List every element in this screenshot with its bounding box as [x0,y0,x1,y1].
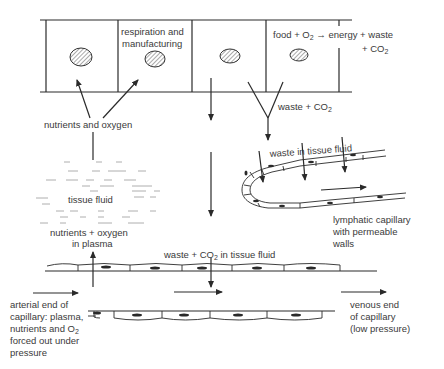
label-arterial-3: nutrients and O2 [10,323,79,335]
label-venous-3: (low pressure) [350,323,410,334]
nutrient-arrows [77,80,138,118]
label-waste-in-tissue-fluid: waste in tissue fluid [268,142,352,159]
tissue-fluid-diagram: respiration and manufacturing food + O2 … [0,0,444,369]
blood-capillary-lower-nuclei [93,312,301,317]
label-arterial-2: capillary: plasma, [10,311,83,322]
label-lymphatic-2: with permeable [332,226,397,237]
label-lymphatic-1: lymphatic capillary [333,214,411,225]
lymphatic-nuclei [245,154,384,207]
lymph-flow-arrow [321,187,366,190]
label-nutrients-plasma-1: nutrients + oxygen [50,227,128,238]
label-manufacturing: manufacturing [122,38,182,49]
label-respiration: respiration and [121,26,184,37]
nucleus-icon [290,49,308,61]
nucleus-icon [220,49,240,63]
nucleus-icon [70,48,92,66]
tissue-fluid-dashes [36,162,160,223]
label-venous-1: venous end [350,299,399,310]
label-lymphatic-3: walls [332,238,354,249]
label-arterial-4: forced out under [10,335,79,346]
label-waste-co2-tissue-fluid: waste + CO2 in tissue fluid [163,249,275,261]
label-arterial-1: arterial end of [10,299,68,310]
cell-nuclei [70,48,308,67]
label-nutrients-plasma-2: in plasma [72,238,113,249]
nucleus-icon [145,51,165,67]
label-venous-2: of capillary [350,311,396,322]
label-equation-line2: + CO2 [362,43,388,55]
label-tissue-fluid: tissue fluid [68,194,113,205]
label-arterial-5: pressure [10,347,47,358]
lymphatic-capillary [242,150,406,208]
label-equation-line1: food + O2 → energy + waste [273,29,393,41]
label-waste-co2: waste + CO2 [277,101,332,113]
label-nutrients-oxygen: nutrients and oxygen [44,119,132,130]
